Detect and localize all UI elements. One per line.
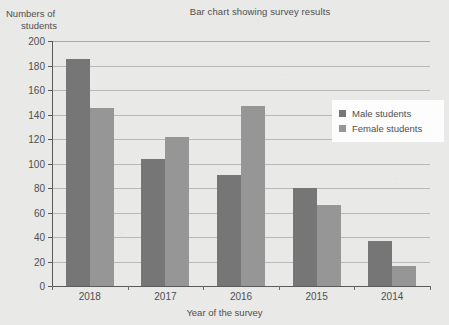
bar-group bbox=[368, 41, 416, 286]
bar-group bbox=[217, 41, 265, 286]
bar-chart: Bar chart showing survey results Numbers… bbox=[0, 0, 449, 325]
y-tick-label: 0 bbox=[39, 281, 45, 292]
bar-2018-female bbox=[90, 108, 114, 286]
bar-2016-female bbox=[241, 106, 265, 286]
bar-2018-male bbox=[66, 59, 90, 286]
x-axis-end-tick bbox=[430, 286, 431, 290]
x-tick-mark bbox=[128, 286, 129, 290]
bar-2017-female bbox=[165, 137, 189, 286]
bar-2017-male bbox=[141, 159, 165, 286]
bar-2015-female bbox=[317, 205, 341, 286]
y-tick-label: 100 bbox=[28, 158, 45, 169]
legend-label: Female students bbox=[352, 123, 422, 134]
y-tick-label: 20 bbox=[34, 256, 45, 267]
bar-group bbox=[293, 41, 341, 286]
bar-2015-male bbox=[293, 188, 317, 286]
x-tick-mark bbox=[279, 286, 280, 290]
legend-item-male: Male students bbox=[339, 106, 438, 121]
x-tick-label-2016: 2016 bbox=[230, 291, 252, 302]
x-tick-mark bbox=[354, 286, 355, 290]
legend-label: Male students bbox=[352, 108, 411, 119]
plot-area: 020406080100120140160180200 201820172016… bbox=[52, 41, 430, 286]
y-tick-label: 120 bbox=[28, 134, 45, 145]
bar-2014-female bbox=[392, 266, 416, 286]
gridline bbox=[52, 286, 430, 287]
y-axis-title-line-2: students bbox=[6, 20, 80, 32]
x-axis-end-tick bbox=[52, 286, 53, 290]
x-tick-label-2018: 2018 bbox=[79, 291, 101, 302]
bar-group bbox=[141, 41, 189, 286]
bar-group bbox=[66, 41, 114, 286]
x-tick-mark bbox=[203, 286, 204, 290]
x-tick-label-2014: 2014 bbox=[381, 291, 403, 302]
legend-swatch-icon bbox=[339, 125, 346, 132]
y-tick-label: 60 bbox=[34, 207, 45, 218]
y-tick-label: 140 bbox=[28, 109, 45, 120]
y-tick-label: 180 bbox=[28, 60, 45, 71]
chart-title: Bar chart showing survey results bbox=[150, 6, 370, 17]
chart-legend: Male studentsFemale students bbox=[332, 100, 444, 142]
y-tick-label: 40 bbox=[34, 232, 45, 243]
legend-item-female: Female students bbox=[339, 121, 438, 136]
y-tick-label: 200 bbox=[28, 36, 45, 47]
y-tick-label: 80 bbox=[34, 183, 45, 194]
legend-swatch-icon bbox=[339, 110, 346, 117]
bars-layer bbox=[52, 41, 430, 286]
y-axis-title: Numbers of students bbox=[6, 8, 80, 32]
x-tick-label-2017: 2017 bbox=[154, 291, 176, 302]
bar-2016-male bbox=[217, 175, 241, 286]
x-tick-label-2015: 2015 bbox=[305, 291, 327, 302]
y-tick-label: 160 bbox=[28, 85, 45, 96]
x-axis-title: Year of the survey bbox=[0, 307, 449, 318]
y-axis-title-line-1: Numbers of bbox=[6, 8, 80, 20]
bar-2014-male bbox=[368, 241, 392, 286]
